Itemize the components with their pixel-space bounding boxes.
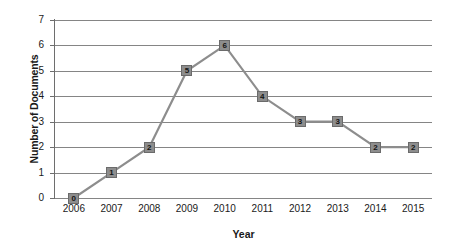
y-axis-tick-label: 5 xyxy=(4,65,44,76)
data-point-2011: 4 xyxy=(257,91,268,102)
data-point-2012: 3 xyxy=(295,116,306,127)
x-axis-title: Year xyxy=(55,228,432,240)
y-axis-tick-label: 0 xyxy=(4,192,44,203)
y-axis-tick-label: 3 xyxy=(4,116,44,127)
y-axis-tick-label: 7 xyxy=(4,14,44,25)
y-axis-tick-label: 2 xyxy=(4,141,44,152)
y-axis-title: Number of Documents xyxy=(28,29,40,189)
x-axis-tick-label: 2015 xyxy=(390,203,436,214)
data-point-2006: 0 xyxy=(68,193,79,204)
plot-area: 0125643322 xyxy=(55,20,432,198)
line-chart: Number of Documents 01234567 0125643322 … xyxy=(0,0,449,251)
data-point-2007: 1 xyxy=(106,167,117,178)
data-point-2009: 5 xyxy=(181,65,192,76)
gridline xyxy=(55,198,432,199)
data-point-2008: 2 xyxy=(144,142,155,153)
y-axis-tick-label: 4 xyxy=(4,90,44,101)
data-point-2013: 3 xyxy=(332,116,343,127)
data-point-2010: 6 xyxy=(219,40,230,51)
data-point-2015: 2 xyxy=(408,142,419,153)
y-axis-tick-label: 1 xyxy=(4,167,44,178)
data-point-2014: 2 xyxy=(370,142,381,153)
y-axis-tick-label: 6 xyxy=(4,39,44,50)
